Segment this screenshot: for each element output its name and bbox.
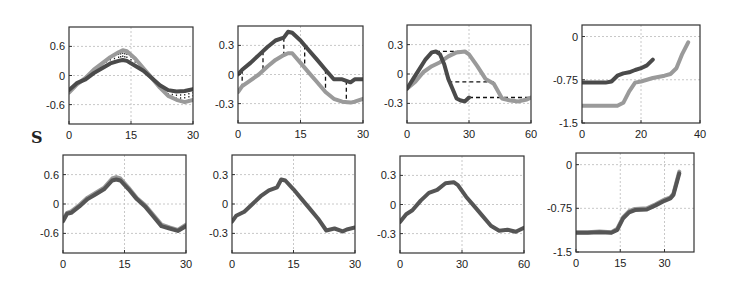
y-tick-label: -0.75 (553, 74, 578, 86)
x-tick-label: 40 (694, 128, 706, 140)
x-tick-label: 15 (118, 258, 130, 270)
axes-box (576, 153, 694, 252)
x-tick-label: 15 (614, 257, 626, 269)
y-tick-label: -1.5 (559, 117, 578, 129)
x-tick-label: 0 (229, 258, 235, 270)
y-tick-label: -0.3 (377, 228, 396, 240)
chart-top-2: 0.30-0.301530 (215, 26, 369, 140)
y-tick-label: 0.3 (219, 39, 234, 51)
x-tick-label: 30 (180, 258, 192, 270)
chart-top-1: 0.60-0.601530 (46, 27, 199, 141)
x-tick-label: 60 (525, 128, 537, 140)
chart-top-3: 0.30-0.303060 (384, 25, 537, 140)
x-tick-label: 0 (404, 128, 410, 140)
y-tick-label: 0 (222, 198, 228, 210)
series-dark-line (407, 52, 469, 102)
chart-bottom-4: 0-0.75-1.501530 (547, 153, 694, 269)
y-tick-label: 0.6 (44, 169, 59, 181)
y-tick-label: 0.3 (213, 169, 228, 181)
y-tick-label: 0 (390, 199, 396, 211)
y-tick-label: -0.6 (40, 227, 59, 239)
x-tick-label: 15 (125, 129, 137, 141)
series-light-line (582, 42, 688, 105)
x-tick-label: 60 (518, 258, 530, 270)
y-tick-label: -0.75 (547, 202, 572, 214)
y-tick-label: 0.6 (50, 40, 65, 52)
x-tick-label: 0 (235, 128, 241, 140)
chart-bottom-2: 0.30-0.301530 (209, 155, 361, 270)
x-tick-label: 30 (456, 258, 468, 270)
chart-bottom-1: 0.60-0.601530 (40, 155, 192, 270)
x-tick-label: 0 (60, 258, 66, 270)
y-tick-label: -1.5 (553, 246, 572, 258)
chart-bottom-3: 0.30-0.303060 (377, 156, 530, 270)
series-dark-line (576, 173, 679, 232)
x-tick-label: 30 (463, 128, 475, 140)
x-tick-label: 30 (357, 128, 369, 140)
x-tick-label: 0 (66, 129, 72, 141)
y-tick-label: 0 (397, 68, 403, 80)
y-tick-label: 0.3 (381, 169, 396, 181)
figure-canvas: 0.60-0.6015300.30-0.3015300.30-0.3030600… (0, 0, 740, 290)
y-tick-label: 0 (566, 159, 572, 171)
y-tick-label: 0.3 (388, 39, 403, 51)
y-tick-label: -0.3 (215, 98, 234, 110)
y-tick-label: 0 (228, 69, 234, 81)
y-tick-label: 0 (53, 198, 59, 210)
x-tick-label: 20 (635, 128, 647, 140)
y-tick-label: 0 (59, 70, 65, 82)
x-tick-label: 0 (579, 128, 585, 140)
x-tick-label: 30 (349, 258, 361, 270)
y-tick-label: 0 (572, 31, 578, 43)
x-tick-label: 15 (294, 128, 306, 140)
y-tick-label: -0.3 (209, 227, 228, 239)
y-tick-label: -0.6 (46, 99, 65, 111)
x-tick-label: 15 (287, 258, 299, 270)
chart-top-4: 0-0.75-1.502040 (553, 25, 706, 140)
y-tick-label: -0.3 (384, 97, 403, 109)
x-tick-label: 30 (187, 129, 199, 141)
x-tick-label: 0 (573, 257, 579, 269)
x-tick-label: 30 (658, 257, 670, 269)
x-tick-label: 0 (397, 258, 403, 270)
side-label-s: S (31, 128, 43, 147)
